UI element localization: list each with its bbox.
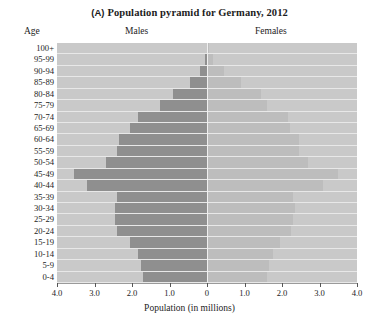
age-label-10-14: 10-14 — [8, 249, 54, 260]
x-tick — [207, 283, 208, 287]
age-label-15-19: 15-19 — [8, 237, 54, 248]
x-tick — [245, 283, 246, 287]
plot-area — [57, 43, 357, 283]
population-pyramid-figure: (A) Population pyramid for Germany, 2012… — [0, 0, 379, 335]
x-axis-title: Population (in millions) — [0, 303, 379, 313]
age-label-80-84: 80-84 — [8, 89, 54, 100]
age-label-65-69: 65-69 — [8, 123, 54, 134]
x-tick — [132, 283, 133, 287]
x-tick — [95, 283, 96, 287]
age-label-95-99: 95-99 — [8, 54, 54, 65]
age-label-100plus: 100+ — [8, 43, 54, 54]
chart-title: (A) Population pyramid for Germany, 2012 — [0, 7, 379, 18]
x-tick-label: 4.0 — [342, 288, 372, 298]
age-label-5-9: 5-9 — [8, 260, 54, 271]
age-label-50-54: 50-54 — [8, 157, 54, 168]
x-tick — [170, 283, 171, 287]
x-tick-label: 4.0 — [42, 288, 72, 298]
age-label-70-74: 70-74 — [8, 112, 54, 123]
x-tick — [57, 283, 58, 287]
age-label-30-34: 30-34 — [8, 203, 54, 214]
panel-tag: (A) — [91, 7, 105, 18]
age-label-60-64: 60-64 — [8, 134, 54, 145]
age-label-75-79: 75-79 — [8, 100, 54, 111]
x-tick-label: 2.0 — [267, 288, 297, 298]
age-label-25-29: 25-29 — [8, 214, 54, 225]
x-tick-label: 1.0 — [230, 288, 260, 298]
x-tick — [320, 283, 321, 287]
age-label-45-49: 45-49 — [8, 169, 54, 180]
x-tick — [357, 283, 358, 287]
x-tick — [282, 283, 283, 287]
x-tick-label: 3.0 — [305, 288, 335, 298]
females-column-header: Females — [255, 26, 287, 36]
x-tick-label: 3.0 — [80, 288, 110, 298]
x-tick-label: 2.0 — [117, 288, 147, 298]
zero-axis-line — [207, 43, 208, 283]
age-label-55-59: 55-59 — [8, 146, 54, 157]
x-tick-label: 1.0 — [155, 288, 185, 298]
x-tick-label: 0 — [192, 288, 222, 298]
age-label-40-44: 40-44 — [8, 180, 54, 191]
age-label-35-39: 35-39 — [8, 192, 54, 203]
age-column-header: Age — [24, 26, 40, 36]
age-label-85-89: 85-89 — [8, 77, 54, 88]
age-label-0-4: 0-4 — [8, 272, 54, 283]
age-label-90-94: 90-94 — [8, 66, 54, 77]
age-label-20-24: 20-24 — [8, 226, 54, 237]
chart-title-text: Population pyramid for Germany, 2012 — [107, 7, 287, 18]
males-column-header: Males — [125, 26, 148, 36]
